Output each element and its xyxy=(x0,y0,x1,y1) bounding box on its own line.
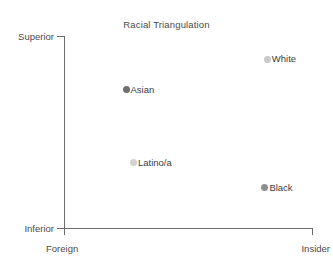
x-axis-tick-foreign xyxy=(64,228,65,235)
x-axis-label-insider: Insider xyxy=(0,243,330,254)
data-point-label: Asian xyxy=(131,84,155,95)
y-axis-tick-inferior xyxy=(57,228,64,229)
data-point-marker xyxy=(130,159,137,166)
data-point-label: Latino/a xyxy=(138,157,172,168)
y-axis-line xyxy=(64,36,65,229)
chart-title: Racial Triangulation xyxy=(0,19,333,30)
x-axis-tick-insider xyxy=(312,228,313,235)
racial-triangulation-chart: Racial Triangulation Superior Inferior F… xyxy=(0,0,333,274)
y-axis-label-inferior: Inferior xyxy=(0,223,54,234)
y-axis-label-superior: Superior xyxy=(0,31,54,42)
data-point-marker xyxy=(123,86,130,93)
data-point-label: White xyxy=(272,53,296,64)
y-axis-tick-superior xyxy=(57,36,64,37)
data-point-label: Black xyxy=(269,182,292,193)
data-point-marker xyxy=(261,184,268,191)
data-point-marker xyxy=(264,56,271,63)
x-axis-line xyxy=(64,228,312,229)
